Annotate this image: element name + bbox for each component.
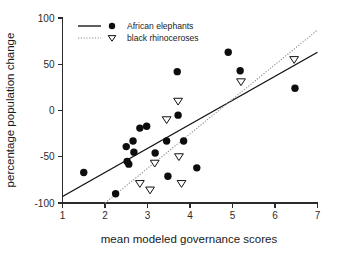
data-point-elephant [164,172,171,179]
y-tick-label: 100 [38,13,55,24]
data-point-elephant [193,164,200,171]
chart-canvas: -100-500501001234567 mean modeled govern… [0,0,338,255]
x-tick-label: 7 [315,210,321,221]
data-point-elephant [125,160,132,167]
y-axis-title: percentage population change [4,33,16,188]
data-point-elephant [291,85,298,92]
scatter-plot-figure: -100-500501001234567 mean modeled govern… [0,0,338,255]
data-point-elephant [112,190,119,197]
data-point-elephant [130,148,137,155]
data-point-elephant [143,123,150,130]
data-point-elephant [180,137,187,144]
data-point-elephant [163,137,170,144]
legend-label-rhinoceroses: black rhinoceroses [127,33,199,43]
data-point-elephant [123,143,130,150]
data-point-elephant [174,111,181,118]
x-tick-label: 2 [102,210,108,221]
data-point-elephant [80,169,87,176]
x-tick-label: 4 [187,210,193,221]
legend-label-elephants: African elephants [127,21,193,31]
data-point-elephant [136,124,143,131]
x-tick-label: 3 [145,210,151,221]
data-point-elephant [151,149,158,156]
legend-marker-filled-circle [109,23,115,29]
x-tick-label: 5 [230,210,236,221]
data-point-elephant [129,137,136,144]
x-tick-label: 6 [272,210,278,221]
x-axis-title: mean modeled governance scores [101,233,278,245]
data-point-elephant [174,68,181,75]
data-point-elephant [236,67,243,74]
x-tick-label: 1 [60,210,66,221]
y-tick-label: 50 [43,59,55,70]
y-tick-label: -50 [40,151,55,162]
y-tick-label: 0 [49,105,55,116]
y-tick-label: -100 [34,198,54,209]
data-point-elephant [225,49,232,56]
